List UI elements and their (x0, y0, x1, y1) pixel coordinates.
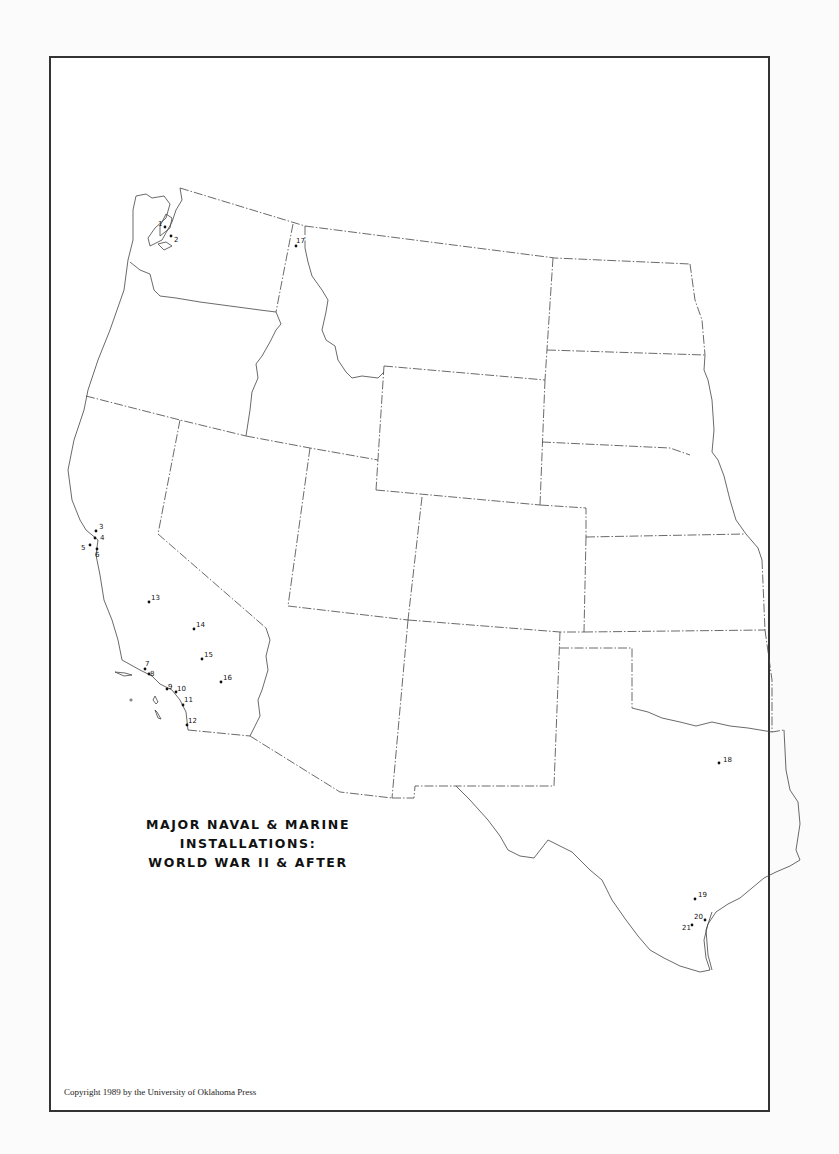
marker-19[interactable]: 19 (694, 891, 707, 900)
channel-islands (115, 672, 161, 719)
columbia-river (130, 262, 276, 312)
map-title-line-1: MAJOR NAVAL & MARINE (138, 815, 358, 834)
marker-8[interactable]: 8 (148, 670, 155, 678)
svg-text:15: 15 (204, 651, 213, 659)
rio-grande (456, 786, 710, 972)
svg-text:21: 21 (682, 924, 691, 932)
colorado-river (250, 628, 270, 736)
map-title-line-2: INSTALLATIONS: (138, 834, 358, 853)
pacific-coastline (68, 188, 188, 730)
map-title: MAJOR NAVAL & MARINE INSTALLATIONS: WORL… (138, 815, 358, 872)
svg-text:8: 8 (150, 670, 154, 678)
marker-20[interactable]: 20 (694, 913, 706, 921)
marker-10[interactable]: 10 (175, 685, 186, 693)
marker-6[interactable]: 6 (95, 548, 100, 559)
marker-17[interactable]: 17 (295, 237, 305, 247)
snake-river (246, 312, 281, 436)
svg-text:4: 4 (100, 534, 105, 542)
svg-text:9: 9 (168, 683, 172, 691)
marker-2[interactable]: 2 (170, 235, 179, 244)
svg-text:1: 1 (158, 220, 162, 228)
marker-11[interactable]: 11 (182, 696, 193, 706)
marker-4[interactable]: 4 (94, 534, 105, 542)
marker-1[interactable]: 1 (158, 220, 166, 228)
idaho-montana-border (305, 248, 384, 378)
sabine-river (784, 730, 800, 860)
map-canvas: 1 2 3 4 5 6 7 8 9 10 11 12 13 14 15 16 1… (0, 0, 839, 1154)
marker-18[interactable]: 18 (718, 756, 732, 764)
marker-13[interactable]: 13 (148, 594, 160, 603)
copyright-notice: Copyright 1989 by the University of Okla… (64, 1087, 256, 1097)
map-title-line-3: WORLD WAR II & AFTER (138, 853, 358, 872)
svg-text:6: 6 (95, 551, 100, 559)
missouri-river (704, 355, 762, 560)
marker-15[interactable]: 15 (201, 651, 213, 660)
marker-12[interactable]: 12 (186, 717, 197, 726)
svg-text:2: 2 (174, 236, 178, 244)
svg-text:20: 20 (694, 913, 703, 921)
svg-text:10: 10 (177, 685, 186, 693)
svg-text:14: 14 (196, 621, 205, 629)
state-borders (86, 188, 784, 798)
svg-text:18: 18 (723, 756, 732, 764)
marker-3[interactable]: 3 (95, 523, 104, 532)
svg-text:5: 5 (81, 544, 85, 552)
texas-gulf-coast (704, 860, 800, 970)
marker-14[interactable]: 14 (193, 621, 206, 630)
marker-16[interactable]: 16 (220, 674, 233, 683)
svg-text:3: 3 (99, 523, 103, 531)
marker-21[interactable]: 21 (682, 924, 693, 932)
red-river (632, 708, 772, 732)
marker-7[interactable]: 7 (144, 660, 150, 670)
svg-text:16: 16 (223, 674, 232, 682)
svg-text:17: 17 (296, 237, 305, 245)
svg-text:13: 13 (151, 594, 160, 602)
svg-text:11: 11 (184, 696, 193, 704)
svg-text:7: 7 (145, 660, 149, 668)
svg-text:19: 19 (698, 891, 707, 899)
svg-text:12: 12 (188, 717, 197, 725)
marker-5[interactable]: 5 (81, 544, 91, 552)
